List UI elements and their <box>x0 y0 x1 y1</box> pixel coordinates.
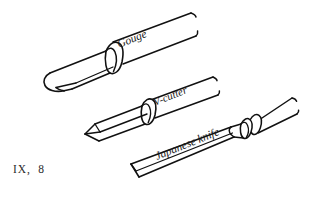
knife-handle-end-bottom <box>297 110 299 114</box>
vcutter-tip-lower-bevel <box>85 134 99 141</box>
knife-tang-top-edge <box>231 124 241 127</box>
vcutter-blade-bottom-edge <box>99 124 145 141</box>
tool-gouge: Gouge <box>44 13 198 91</box>
knife-handle-end-top <box>292 98 297 101</box>
gouge-tip-mouth-curve <box>44 73 64 91</box>
vcutter-blade-crease-line <box>100 114 147 132</box>
vcutter-tip-facet-join <box>95 124 100 132</box>
gouge-tip-point <box>56 88 64 91</box>
gouge-tip-edge-lower <box>64 89 72 91</box>
knife-ferrule-inner <box>240 119 252 139</box>
gouge-tip-bevel-line <box>56 83 76 88</box>
carving-tools-illustration: Gouge V-cutter <box>0 0 313 198</box>
gouge-label: Gouge <box>115 27 148 51</box>
vcutter-blade-top-edge <box>95 106 142 124</box>
vcutter-handle-end-top <box>213 77 217 81</box>
gouge-blade-inner-channel-line <box>76 67 113 83</box>
figure-container: Gouge V-cutter <box>0 0 313 198</box>
knife-blade-point-facet <box>131 164 136 171</box>
gouge-handle-end-top <box>191 13 196 17</box>
gouge-blade-rim-edge <box>50 51 106 73</box>
gouge-handle-end-bottom <box>196 31 198 36</box>
gouge-blade-outer-lower-edge <box>72 73 110 89</box>
v-cutter-label: V-cutter <box>151 83 189 108</box>
knife-tang-shoulder <box>229 127 234 137</box>
figure-caption: IX, 8 <box>13 163 45 175</box>
vcutter-handle-end-bottom <box>218 91 219 95</box>
knife-tang-bottom-edge <box>234 137 243 138</box>
